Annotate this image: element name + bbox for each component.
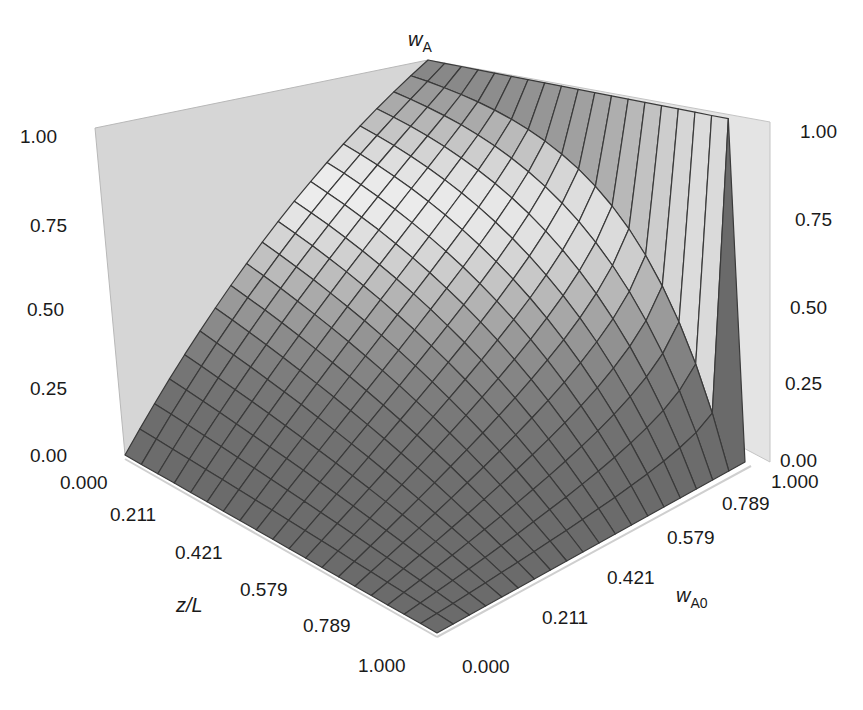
x-tick-label: 0.789 [303, 615, 351, 636]
z-tick-label-right: 1.00 [800, 121, 837, 142]
y-tick-label: 0.789 [722, 493, 770, 514]
z-tick-label-left: 0.75 [30, 215, 67, 236]
z-tick-label-right: 0.00 [780, 450, 817, 471]
y-tick-label: 0.000 [462, 656, 510, 677]
y-tick-label: 1.000 [771, 471, 819, 492]
z-tick-label-left: 1.00 [20, 126, 57, 147]
x-tick-label: 0.421 [175, 542, 223, 563]
z-tick-label-left: 0.00 [30, 445, 67, 466]
surface-plot: 0.0000.2110.4210.5790.7891.0000.0000.211… [0, 0, 863, 710]
z-axis-label: wA [408, 28, 432, 55]
x-axis-label: z/L [175, 594, 203, 616]
z-tick-label-right: 0.75 [795, 209, 832, 230]
x-tick-label: 0.579 [240, 579, 288, 600]
z-tick-label-right: 0.25 [785, 373, 822, 394]
x-tick-label: 0.000 [60, 472, 108, 493]
y-axis-label: wA0 [676, 584, 708, 611]
z-tick-label-left: 0.25 [30, 378, 67, 399]
x-tick-label: 0.211 [110, 504, 156, 525]
y-tick-label: 0.211 [542, 607, 588, 628]
z-tick-label-left: 0.50 [27, 299, 64, 320]
z-tick-label-right: 0.50 [790, 297, 827, 318]
y-tick-label: 0.421 [607, 567, 655, 588]
y-tick-label: 0.579 [667, 527, 715, 548]
x-tick-label: 1.000 [358, 655, 406, 676]
